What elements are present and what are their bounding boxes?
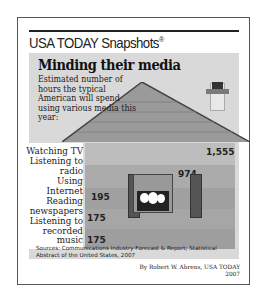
- chimney-pots: [212, 82, 223, 89]
- label-internet: Using Internet: [26, 177, 83, 196]
- brand-text: USA TODAY Snapshots: [29, 34, 159, 51]
- label-newspapers: Reading newspapers: [26, 197, 83, 216]
- label-music: Listening to recorded music: [26, 217, 83, 246]
- registered-mark: ®: [159, 35, 164, 44]
- label-radio: Listening to radio: [26, 157, 83, 176]
- value-newspapers: 175: [87, 213, 106, 223]
- chimney-cap: [206, 89, 229, 94]
- byline-author: By Robert W. Ahrens, USA TODAY: [140, 264, 240, 271]
- flame-icon: [157, 194, 165, 203]
- value-music: 175: [87, 235, 106, 245]
- brand-title: USA TODAY Snapshots®: [29, 34, 164, 51]
- value-internet: 195: [91, 192, 110, 202]
- right-shutter: [190, 174, 202, 218]
- category-labels: Watching TV Listening to radio Using Int…: [26, 143, 83, 249]
- fireplace-icon: [137, 191, 169, 211]
- top-rule: [29, 30, 239, 32]
- chart-subtitle: Estimated number of hours the typical Am…: [38, 75, 139, 123]
- byline: By Robert W. Ahrens, USA TODAY 2007: [140, 264, 240, 278]
- sources-note: Sources: Communications Industry Forecas…: [36, 245, 236, 259]
- byline-year: 2007: [140, 271, 240, 278]
- value-watching-tv: 1,555: [206, 147, 234, 157]
- chart-title: Minding their media: [38, 56, 180, 73]
